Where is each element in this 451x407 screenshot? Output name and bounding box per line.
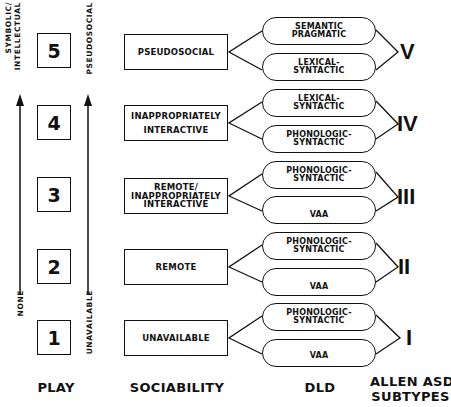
play-axis-top-label: SYMBOLIC/ INTELLECTUAL bbox=[5, 2, 22, 82]
subtype-iii: III bbox=[397, 186, 415, 208]
play-level-2: 2 bbox=[37, 249, 71, 284]
subtype-ii: II bbox=[398, 256, 410, 278]
sociability-axis-bottom-label: UNAVAILABLE bbox=[86, 290, 95, 370]
play-level-3: 3 bbox=[37, 177, 71, 212]
dld-phonologic-syntactic: PHONOLOGIC- SYNTACTIC bbox=[262, 232, 376, 260]
sociability-level-remote: REMOTE bbox=[124, 249, 228, 285]
dld-phonologic-syntactic: PHONOLOGIC- SYNTACTIC bbox=[262, 125, 376, 153]
dld-lexical-syntactic: LEXICAL- SYNTACTIC bbox=[262, 53, 376, 81]
subtype-v: V bbox=[400, 41, 415, 63]
sociability-level-remote-inappropriately-interactive: REMOTE/ INAPPROPRIATELY INTERACTIVE bbox=[124, 178, 228, 214]
dld-phonologic-syntactic: PHONOLOGIC- SYNTACTIC bbox=[262, 161, 376, 189]
play-level-1: 1 bbox=[37, 320, 71, 355]
column-label-allen-asd-subtypes: ALLEN ASD SUBTYPES bbox=[370, 374, 451, 404]
dld-semantic-pragmatic: SEMANTIC PRAGMATIC bbox=[262, 17, 376, 45]
subtype-iv: IV bbox=[397, 113, 418, 135]
dld-lexical-syntactic: LEXICAL- SYNTACTIC bbox=[262, 89, 376, 117]
dld-phonologic-syntactic: PHONOLOGIC- SYNTACTIC bbox=[262, 303, 376, 331]
column-label-play: PLAY bbox=[34, 380, 78, 395]
sociability-level-pseudosocial: PSEUDOSOCIAL bbox=[124, 34, 228, 70]
sociability-axis-top-label: PSEUDOSOCIAL bbox=[86, 2, 95, 92]
play-level-4: 4 bbox=[37, 105, 71, 140]
sociability-level-inappropriately-interactive: INAPPROPRIATELY INTERACTIVE bbox=[124, 105, 228, 141]
dld-vaa: VAA bbox=[262, 339, 376, 367]
dld-vaa: VAA bbox=[262, 268, 376, 296]
column-label-dld: DLD bbox=[300, 380, 340, 395]
sociability-level-unavailable: UNAVAILABLE bbox=[124, 320, 228, 356]
play-axis-bottom-label: NONE bbox=[17, 290, 26, 330]
play-level-5: 5 bbox=[37, 33, 71, 68]
subtype-i: I bbox=[406, 327, 412, 349]
column-label-sociability: SOCIABILITY bbox=[127, 380, 227, 395]
dld-vaa: VAA bbox=[262, 196, 376, 224]
